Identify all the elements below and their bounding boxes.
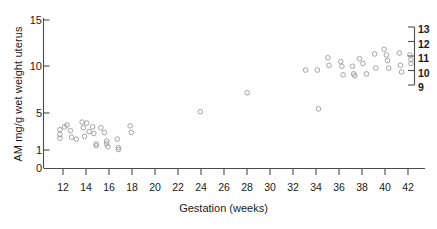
data-point [382, 47, 387, 52]
plot-area [0, 0, 437, 229]
data-point [245, 90, 250, 95]
data-point [74, 137, 79, 142]
data-point [384, 53, 389, 58]
data-point [316, 107, 321, 112]
data-point [386, 66, 391, 71]
axis-lines [44, 18, 426, 169]
data-point [87, 129, 92, 134]
data-point [68, 128, 73, 133]
data-point [398, 63, 403, 68]
data-point [85, 121, 90, 126]
data-point [80, 120, 85, 125]
data-point [303, 68, 308, 73]
data-point [106, 144, 111, 149]
scatter-chart: AM mg/g wet weight uterus 15 10 5 1 0 12… [0, 0, 437, 229]
data-point [82, 134, 87, 139]
data-point [69, 135, 74, 140]
data-point [58, 127, 63, 132]
data-point [315, 68, 320, 73]
data-point [81, 126, 86, 131]
x-axis-ticks [63, 169, 408, 176]
data-point [129, 130, 134, 135]
data-point [340, 64, 345, 69]
data-point [326, 55, 331, 60]
data-point [361, 61, 366, 66]
data-point [104, 142, 109, 147]
data-point [327, 63, 332, 68]
data-point [350, 64, 355, 69]
data-point [115, 137, 120, 142]
data-point-group [58, 47, 414, 152]
y-axis-ticks [44, 20, 50, 150]
data-point [341, 72, 346, 77]
data-point [90, 125, 95, 130]
data-point [102, 130, 107, 135]
right-secondary-axis [408, 27, 415, 85]
data-point [92, 131, 97, 136]
data-point [374, 66, 379, 71]
data-point [198, 109, 203, 114]
data-point [397, 51, 402, 56]
data-point [357, 56, 362, 61]
data-point [385, 58, 390, 63]
data-point [128, 124, 133, 129]
data-point [364, 72, 369, 77]
data-point [99, 126, 104, 131]
data-point [399, 70, 404, 75]
data-point [372, 52, 377, 57]
data-point [338, 59, 343, 64]
